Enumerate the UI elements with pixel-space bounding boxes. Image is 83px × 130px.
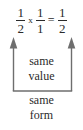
annotation-same-form: same form [0, 93, 83, 123]
fraction-numerator: 1 [58, 6, 67, 19]
fraction-denominator: 2 [58, 22, 67, 35]
math-annotation-figure: 1 2 x 1 1 = 1 2 same value [0, 0, 83, 130]
fraction-numerator: 1 [17, 6, 26, 19]
fraction-one-half-result: 1 2 [58, 6, 67, 35]
right-arrowhead-icon [68, 37, 76, 49]
annotation-same-value: same value [0, 54, 83, 84]
equals-operator: = [45, 14, 58, 26]
fraction-denominator: 1 [36, 22, 45, 35]
annotation-line-2: form [0, 108, 83, 123]
fraction-one-half-first: 1 2 [16, 6, 25, 35]
equation-row: 1 2 x 1 1 = 1 2 [0, 3, 83, 37]
annotation-line-1: same [0, 93, 83, 108]
multiplication-operator: x [25, 16, 36, 25]
fraction-numerator: 1 [36, 6, 45, 19]
fraction-one-over-one: 1 1 [36, 6, 45, 35]
annotation-line-1: same [0, 54, 83, 69]
annotation-line-2: value [0, 69, 83, 84]
left-arrowhead-icon [10, 37, 18, 49]
fraction-denominator: 2 [17, 22, 26, 35]
